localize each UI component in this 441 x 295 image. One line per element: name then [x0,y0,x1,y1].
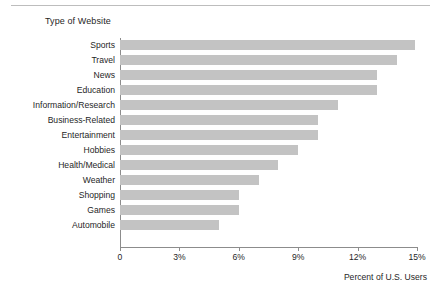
category-label: News [94,68,116,82]
x-tick [239,247,240,251]
x-tick [298,247,299,251]
bar [120,100,338,110]
category-label: Entertainment [61,128,115,142]
category-label: Hobbies [83,143,115,157]
bar [120,205,239,215]
bar [120,40,415,50]
bar-row: News [120,68,417,83]
bar [120,190,239,200]
bar [120,115,318,125]
x-tick [179,247,180,251]
x-tick-label: 9% [292,252,304,262]
category-label: Education [77,83,115,97]
bar [120,130,318,140]
x-tick [417,247,418,251]
x-tick [120,247,121,251]
category-label: Information/Research [33,98,115,112]
bar-row: Hobbies [120,143,417,158]
bar-row: Health/Medical [120,158,417,173]
bar-row: Sports [120,38,417,53]
x-axis-line [120,247,418,248]
chart-figure: Type of Website SportsTravelNewsEducatio… [0,0,441,295]
bar [120,70,377,80]
plot-area: SportsTravelNewsEducationInformation/Res… [120,38,417,247]
bar-row: Entertainment [120,128,417,143]
bar-row: Education [120,83,417,98]
y-axis-title: Type of Website [45,16,111,26]
category-label: Sports [90,38,115,52]
x-tick-label: 3% [173,252,185,262]
category-label: Shopping [79,188,115,202]
bar-row: Information/Research [120,98,417,113]
bar-row: Automobile [120,218,417,233]
x-tick [358,247,359,251]
bar [120,175,259,185]
category-label: Games [87,203,115,217]
bar-row: Weather [120,173,417,188]
x-tick-label: 6% [233,252,245,262]
bar [120,160,278,170]
category-label: Business-Related [48,113,115,127]
bar-row: Shopping [120,188,417,203]
bar-row: Travel [120,53,417,68]
bar [120,55,397,65]
bar [120,220,219,230]
category-label: Health/Medical [58,158,115,172]
bar [120,85,377,95]
x-tick-label: 12% [349,252,366,262]
category-label: Automobile [72,218,115,232]
top-divider [11,5,430,6]
bar-row: Business-Related [120,113,417,128]
bar-row: Games [120,203,417,218]
x-tick-label: 0 [118,252,123,262]
bar [120,145,298,155]
x-tick-label: 15% [408,252,425,262]
category-label: Weather [83,173,115,187]
x-axis-title: Percent of U.S. Users [344,272,427,282]
category-label: Travel [91,53,115,67]
